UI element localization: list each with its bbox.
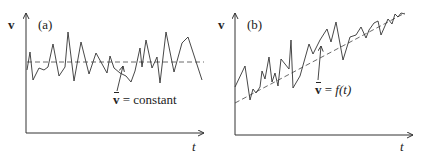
mean-symbol: v: [315, 83, 322, 96]
panel-a: [26, 13, 204, 133]
x-axis-label-a: t: [192, 140, 196, 153]
panel-label-b: (b): [247, 18, 262, 31]
y-axis-label-b: v: [218, 18, 225, 31]
panel-label-a: (a): [38, 18, 52, 31]
annotation-func: f(t): [335, 82, 351, 97]
annotation-arrow: [318, 46, 321, 80]
velocity-trace: [27, 32, 202, 83]
x-axis-label-b: t: [400, 140, 404, 153]
annotation-a: v = constant: [113, 93, 177, 106]
y-axis-label-a: v: [8, 18, 15, 31]
annotation-eq: =: [325, 82, 332, 97]
figure: [0, 0, 425, 155]
annotation-text: = constant: [123, 92, 177, 107]
annotation-arrow: [117, 66, 123, 91]
mean-symbol: v: [113, 93, 120, 106]
annotation-b: v = f(t): [315, 83, 351, 96]
